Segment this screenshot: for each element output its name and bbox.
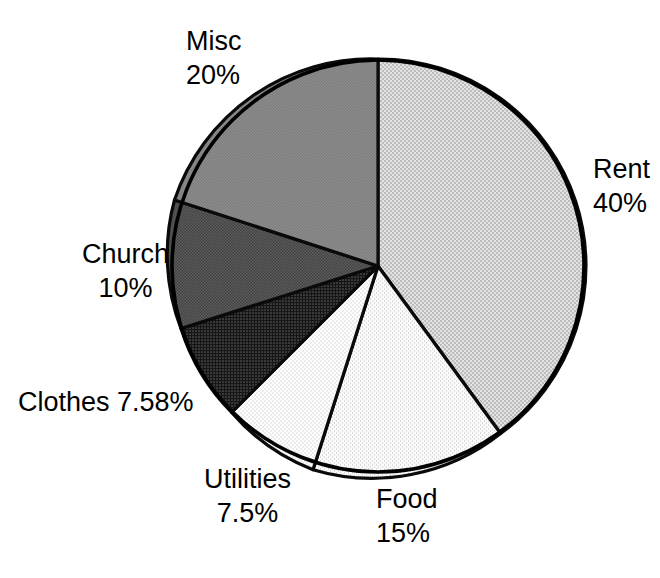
pie-label-utilities: Utilities7.5% [160,462,335,530]
pie-label-rent: Rent40% [593,152,660,220]
pie-label-utilities-value: 7.5% [217,498,279,528]
pie-label-food-value: 15% [376,518,430,548]
pie-label-rent-value: 40% [593,188,647,218]
pie-label-church: Church10% [58,237,193,305]
pie-chart: Misc20% Rent40% Food15% Utilities7.5% Cl… [0,0,660,578]
pie-label-utilities-name: Utilities [204,464,291,494]
pie-label-church-name: Church [82,239,169,269]
pie-label-food: Food15% [376,482,526,550]
pie-label-misc-name: Misc [186,26,242,56]
pie-label-clothes: Clothes 7.58% [18,385,213,419]
pie-label-misc: Misc20% [186,24,336,92]
pie-label-clothes-text: Clothes 7.58% [18,387,194,417]
pie-label-rent-name: Rent [593,154,650,184]
pie-label-church-value: 10% [98,273,152,303]
pie-label-food-name: Food [376,484,438,514]
pie-label-misc-value: 20% [186,60,240,90]
